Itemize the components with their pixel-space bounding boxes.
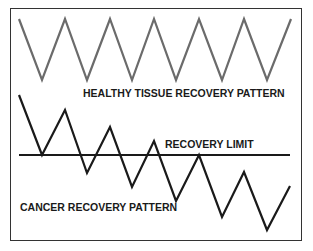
recovery-limit-label: RECOVERY LIMIT <box>165 138 254 150</box>
healthy-recovery-wave <box>19 19 291 80</box>
cancer-pattern-label: CANCER RECOVERY PATTERN <box>20 201 177 213</box>
healthy-pattern-label: HEALTHY TISSUE RECOVERY PATTERN <box>83 87 285 99</box>
recovery-diagram <box>0 0 313 251</box>
